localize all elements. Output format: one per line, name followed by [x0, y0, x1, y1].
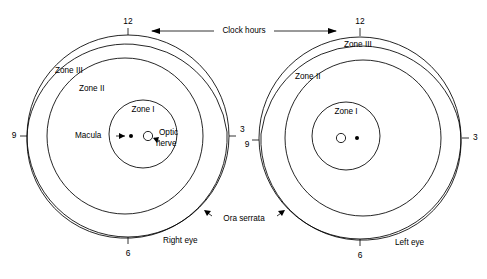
right-eye-macula-label: Macula: [75, 131, 102, 140]
left-eye-clock-6: 6: [358, 250, 363, 260]
right-eye-macula-dot: [129, 134, 133, 138]
clock-hours-arrowhead-right: [328, 28, 337, 34]
left-eye-macula-dot: [355, 136, 359, 140]
right-eye-optic-nerve-label-line2: nerve: [156, 139, 177, 148]
right-eye-group: 12 3 6 9 Zone III Zone II Zone I Macula …: [12, 16, 245, 258]
rop-zone-diagram: 12 3 6 9 Zone III Zone II Zone I Macula …: [0, 0, 487, 279]
ora-serrata-arrowhead-left-eye: [278, 210, 285, 216]
diagram-canvas: 12 3 6 9 Zone III Zone II Zone I Macula …: [0, 0, 487, 279]
ora-serrata-arrowhead-right-eye: [204, 210, 211, 216]
ora-serrata-label: Ora serrata: [223, 214, 265, 223]
left-eye-zone2-label: Zone II: [295, 72, 321, 81]
left-eye-ora-serrata-arc: [261, 46, 461, 240]
clock-hours-label: Clock hours: [222, 26, 265, 35]
left-eye-clock-9: 9: [245, 139, 250, 149]
right-eye-clock-3: 3: [240, 124, 245, 134]
right-eye-zone2-label: Zone II: [79, 84, 105, 93]
left-eye-zone3-label: Zone III: [344, 40, 372, 49]
right-eye-optic-nerve-label-line1: Optic: [159, 128, 178, 137]
left-eye-group: 12 3 6 9 Zone III Zone II Zone I Left ey…: [245, 16, 478, 260]
right-eye-caption: Right eye: [163, 236, 198, 245]
right-eye-zone3-label: Zone III: [55, 66, 83, 75]
clock-hours-arrowhead-left: [151, 28, 160, 34]
right-eye-clock-6: 6: [126, 248, 131, 258]
left-eye-caption: Left eye: [395, 238, 425, 247]
left-eye-clock-12: 12: [355, 16, 365, 26]
right-eye-zone1-label: Zone I: [131, 105, 154, 114]
right-eye-clock-12: 12: [123, 16, 133, 26]
clock-hours-annotation: Clock hours: [151, 26, 337, 35]
left-eye-zone2-ring: [285, 60, 441, 216]
right-eye-optic-nerve-circle: [143, 131, 152, 140]
left-eye-optic-nerve-circle: [336, 133, 345, 142]
right-eye-clock-9: 9: [12, 130, 17, 140]
left-eye-clock-3: 3: [473, 132, 478, 142]
ora-serrata-annotation: Ora serrata: [204, 210, 285, 223]
left-eye-zone1-label: Zone I: [334, 107, 357, 116]
right-eye-macula-arrow: [116, 133, 125, 139]
left-eye-zone3-ring: [259, 37, 461, 239]
